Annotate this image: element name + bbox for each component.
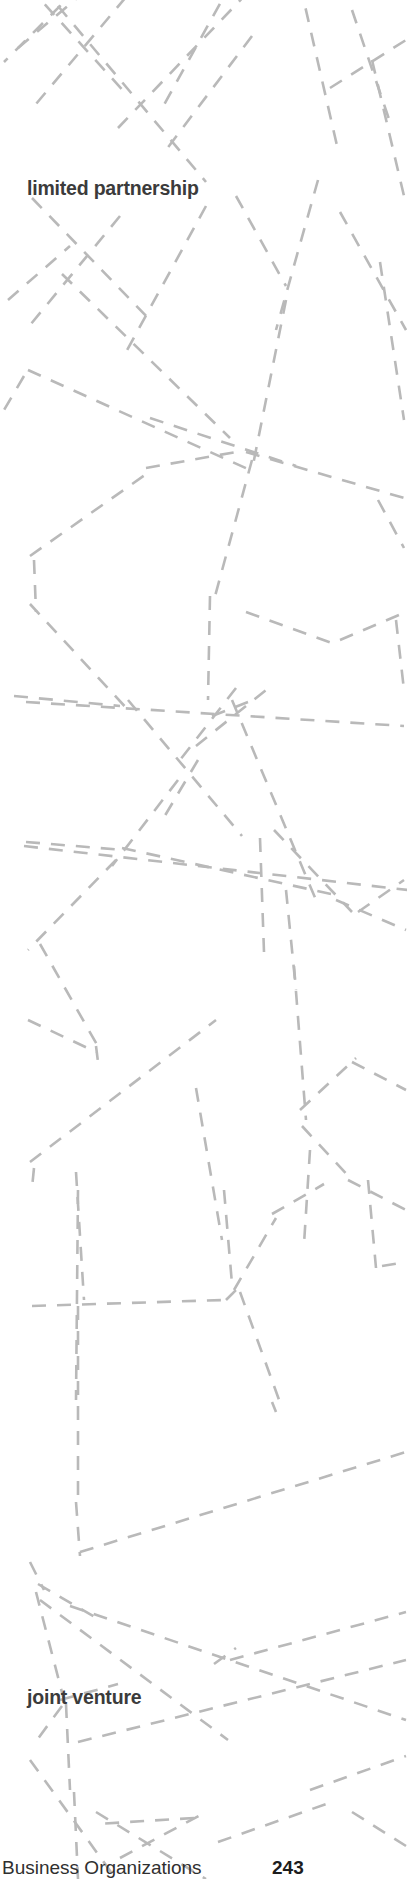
dashed-network-illustration bbox=[0, 0, 407, 1879]
page-footer: Business Organizations 243 bbox=[0, 1858, 407, 1879]
footer-page-number: 243 bbox=[272, 1858, 304, 1879]
textbook-page: limited partnership joint venture Busine… bbox=[0, 0, 407, 1879]
label-limited-partnership: limited partnership bbox=[27, 179, 199, 199]
label-joint-venture: joint venture bbox=[27, 1688, 141, 1708]
footer-chapter-title: Business Organizations bbox=[2, 1858, 202, 1879]
